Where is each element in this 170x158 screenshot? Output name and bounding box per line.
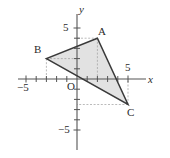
point-label-a: A — [98, 26, 106, 37]
coordinate-plane-svg — [0, 0, 170, 158]
triangle-fill — [46, 38, 128, 104]
y-axis-label: y — [79, 4, 84, 15]
x-axis-label: x — [148, 74, 153, 85]
x-tick-label-neg5: −5 — [17, 82, 29, 93]
point-label-c: C — [127, 107, 134, 118]
y-tick-label-5: 5 — [63, 22, 69, 33]
y-tick-label-neg5: −5 — [58, 124, 70, 135]
figure-canvas: A B C x y O −5 5 5 −5 — [0, 0, 170, 158]
origin-label: O — [67, 81, 75, 92]
point-label-b: B — [34, 44, 41, 55]
x-tick-label-5: 5 — [125, 62, 131, 73]
